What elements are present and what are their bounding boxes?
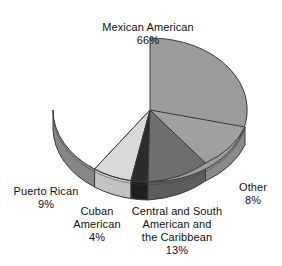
slice-label-central-south-american-pct: 13% (124, 244, 230, 257)
slice-label-central-south-american-name: Central and South American and the Carib… (132, 205, 222, 243)
slice-label-other-pct: 8% (224, 194, 282, 207)
slice-label-mexican-american-name: Mexican American (102, 21, 193, 33)
slice-label-other-name: Other (239, 181, 267, 193)
slice-label-mexican-american: Mexican American 66% (78, 8, 218, 60)
slice-label-other: Other 8% (224, 168, 282, 220)
slice-label-cuban-american-name: Cuban American (73, 205, 120, 230)
slice-label-cuban-american: Cuban American 4% (66, 192, 128, 257)
slice-label-cuban-american-pct: 4% (66, 231, 128, 244)
slice-label-central-south-american: Central and South American and the Carib… (124, 192, 230, 266)
pie-chart-figure: Mexican American 66% Puerto Rican 9% Cub… (0, 0, 282, 266)
slice-label-mexican-american-pct: 66% (78, 34, 218, 47)
